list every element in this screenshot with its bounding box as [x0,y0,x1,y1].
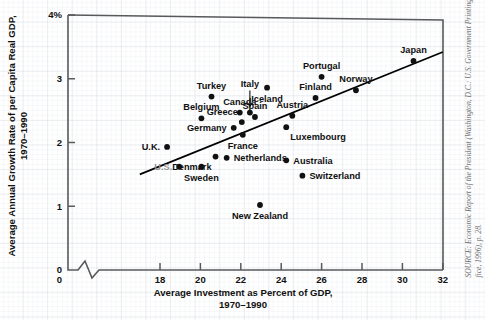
data-points-group: U.K.U.S.BelgiumTurkeyDenmarkSwedenGerman… [142,45,427,221]
data-point-marker [209,94,215,100]
data-point-group: Norway [339,74,373,93]
x-tick-label: 32 [438,274,449,285]
data-point-marker [300,173,306,179]
scatter-chart: 01234%18202224262830320 U.K.U.S.BelgiumT… [0,0,485,320]
data-point-label: Denmark [172,162,212,172]
y-tick-label: 2 [57,137,62,148]
y-axis-title-line1: Average Annual Growth Rate of per Capita… [6,15,17,256]
data-point-label: Portugal [303,61,340,71]
y-axis-title: Average Annual Growth Rate of per Capita… [6,0,30,272]
data-point-group: Switzerland [300,171,361,181]
data-point-label: Australia [293,156,333,166]
x-axis-title-line2: 1970–1990 [219,299,267,310]
x-axis-title: Average Investment as Percent of GDP, 19… [112,287,374,311]
data-point-marker [289,113,295,119]
data-point-group: Netherlands [224,153,287,163]
source-note: SOURCE: Economic Report of the President… [464,42,483,278]
data-point-label: Japan [400,45,427,55]
data-point-marker [283,157,289,163]
data-point-label: Sweden [184,173,219,183]
origin-tick-label: 0 [57,274,62,285]
data-point-group: Luxembourg [283,124,346,142]
x-axis-title-line1: Average Investment as Percent of GDP, [154,287,333,298]
data-point-group: Spain [242,101,267,120]
data-point-label: U.K. [142,142,160,152]
data-point-group: Australia [283,156,333,166]
data-point-marker [283,124,289,130]
data-point-marker [319,74,325,80]
data-point-group: France [228,132,258,151]
data-point-marker [239,119,245,125]
data-point-label: Germany [187,123,228,133]
data-point-label: Finland [299,82,332,92]
x-tick-label: 26 [316,274,327,285]
data-point-marker [257,202,263,208]
data-point-label: Turkey [197,81,227,91]
data-point-label: U.S. [154,162,172,172]
data-point-marker [164,144,170,150]
data-point-label: France [228,141,258,151]
data-point-marker [199,164,205,170]
data-point-marker [240,132,246,138]
data-point-marker [252,114,258,120]
x-tick-label: 20 [195,274,206,285]
data-point-group: Portugal [303,61,340,80]
x-tick-label: 30 [397,274,408,285]
data-point-label: Switzerland [309,171,360,181]
y-axis-title-line2: 1970–1990 [18,112,29,160]
data-point-label: Austria [276,100,309,110]
data-point-group: Japan [400,45,427,64]
data-point-marker [313,95,319,101]
data-point-group: Germany [187,123,237,133]
y-tick-label: 1 [57,201,63,212]
data-point-marker [224,155,230,161]
data-point-label: Norway [339,74,373,84]
y-tick-label: 4% [48,9,62,20]
data-point-marker [353,87,359,93]
data-point-label: New Zealand [232,211,288,221]
source-line2: fice, 1996), p. 28. [473,224,482,277]
data-point-label: Greece [207,107,238,117]
data-point-label: Luxembourg [290,132,346,142]
x-tick-label: 22 [236,274,247,285]
y-tick-label: 3 [57,73,62,84]
x-tick-label: 18 [155,274,166,285]
x-tick-label: 24 [276,274,287,285]
data-point-marker [199,115,205,121]
data-point-group: U.K. [142,142,170,152]
data-point-marker [264,85,270,91]
data-point-group: New Zealand [232,202,288,221]
data-point-label: Netherlands [234,153,287,163]
data-point-marker [231,125,237,131]
data-point-marker [411,58,417,64]
data-point-group: Denmark [172,154,218,172]
source-line1: SOURCE: Economic Report of the President… [464,0,473,278]
data-point-marker [213,154,219,160]
x-tick-label: 28 [357,274,368,285]
data-point-label: Italy [241,79,260,89]
data-point-group: Austria [276,100,309,119]
